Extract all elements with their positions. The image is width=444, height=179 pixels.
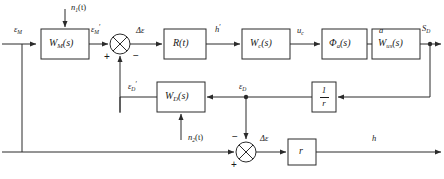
block-w-us-label: Wus(s) xyxy=(378,38,403,49)
block-one-over-r-label: 1 r xyxy=(312,82,336,112)
block-w-m-label: WM(s) xyxy=(49,38,73,49)
signal-h-prime-label: h′ xyxy=(215,25,221,34)
signal-h-output-label: h xyxy=(372,134,376,143)
sign-minus-top-right: − xyxy=(133,51,139,61)
signal-epsilon-d-label: εD xyxy=(239,82,246,92)
block-r-gain-label: r xyxy=(299,146,303,156)
sign-plus-bottom-left: + xyxy=(231,160,237,170)
diagram-vector-layer xyxy=(0,0,444,179)
sign-plus-top-left: + xyxy=(104,52,110,62)
signal-delta-epsilon-top-label: Δε xyxy=(136,26,144,35)
signal-s-d-label: SD xyxy=(422,24,430,34)
signal-n1-t-label: n1(t) xyxy=(71,3,86,13)
signal-a-label: a xyxy=(379,26,383,35)
signal-epsilon-m-label: εM xyxy=(14,25,22,35)
signal-epsilon-d-prime-label: εD′ xyxy=(128,82,137,92)
signal-u-c-label: uc xyxy=(297,26,304,36)
signal-n2-t-label: n2(t) xyxy=(188,133,203,143)
signal-delta-epsilon-bottom-label: Δε xyxy=(260,134,268,143)
block-w-d-label: WD(s) xyxy=(165,91,189,102)
signal-epsilon-m-prime-label: εM′ xyxy=(91,25,101,35)
block-w-c-label: Wc(s) xyxy=(250,38,272,49)
sign-minus-bottom-top: − xyxy=(232,132,238,142)
block-r-t-label: R(t) xyxy=(173,38,189,48)
block-phi-a-label: Φa(s) xyxy=(329,38,350,49)
block-diagram-canvas: εM n1(t) WM(s) εM′ + − Δε R(t) h′ Wc(s) … xyxy=(0,0,444,179)
